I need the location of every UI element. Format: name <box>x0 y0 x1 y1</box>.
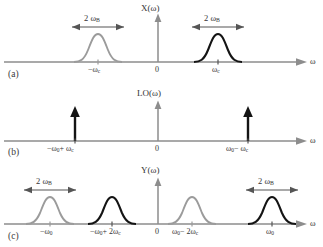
pulse-black-2-c <box>88 197 136 224</box>
axis-title-y-omega: Y(ω) <box>141 166 159 175</box>
tick-label-w0-minus-wc: ω0− ωc <box>226 145 248 154</box>
axis-title-lo-omega: LO(ω) <box>137 89 161 98</box>
tick-label-neg-w0-plus-2wc: −ω0+ 2ωc <box>90 228 121 237</box>
impulse-right-b <box>243 106 253 144</box>
axis-label-omega-c: ω <box>310 219 316 228</box>
panel-c: (c) Y(ω) ω 0 2 ωB 2 ωB −ω0 −ω0+ 2ωc ω0− … <box>0 162 323 247</box>
axis-vertical-b <box>155 101 162 142</box>
origin-label-b: 0 <box>155 145 159 153</box>
panel-label-c: (c) <box>8 232 19 242</box>
tick-label-neg-omega-c: −ωc <box>88 66 100 75</box>
tick-label-pos-omega-c: ωc <box>212 66 220 75</box>
impulse-left-b <box>70 106 80 144</box>
origin-label-c: 0 <box>155 228 159 236</box>
axis-label-omega-a: ω <box>310 57 316 66</box>
pulse-black-4-c <box>248 197 296 224</box>
measure-arrow-left-a <box>72 24 124 30</box>
measure-label-left-c: 2 ωB <box>36 177 52 187</box>
tick-label-neg-w0: −ω0 <box>40 228 53 237</box>
panel-a: (a) X(ω) ω 0 2 ωB 2 ωB −ωc ωc <box>0 0 323 85</box>
pulse-black-right-a <box>194 34 242 62</box>
axis-label-omega-b: ω <box>310 136 316 145</box>
measure-arrow-left-c <box>24 187 76 193</box>
panel-a-graphic <box>0 0 323 85</box>
origin-label-a: 0 <box>155 66 159 74</box>
axis-vertical-a <box>155 14 162 63</box>
panel-b: (b) LO(ω) ω 0 −ω0+ ωc ω0− ωc <box>0 85 323 162</box>
measure-label-left-a: 2 ωB <box>84 14 100 24</box>
pulse-gray-left-a <box>74 34 122 62</box>
axis-title-x-omega: X(ω) <box>141 4 159 13</box>
pulse-gray-1-c <box>26 197 74 224</box>
measure-label-right-c: 2 ωB <box>258 177 274 187</box>
tick-label-w0: ω0 <box>266 228 274 237</box>
tick-label-neg-w0-plus-wc: −ω0+ ωc <box>47 145 74 154</box>
panel-label-b: (b) <box>8 148 19 158</box>
pulse-gray-3-c <box>168 197 216 224</box>
measure-arrow-right-c <box>246 187 298 193</box>
measure-arrow-right-a <box>192 24 244 30</box>
tick-label-w0-minus-2wc: ω0− 2ωc <box>172 228 198 237</box>
panel-label-a: (a) <box>8 70 19 80</box>
measure-label-right-a: 2 ωB <box>204 14 220 24</box>
axis-vertical-c <box>155 178 162 225</box>
